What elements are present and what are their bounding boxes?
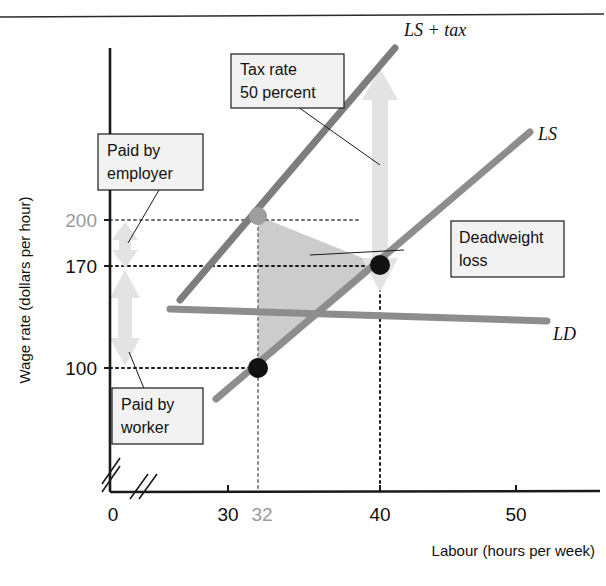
- callout-tax-rate-line2: 50 percent: [240, 84, 316, 101]
- x-axis-break-mark: [130, 474, 157, 499]
- callout-tax-rate-line1: Tax rate: [240, 61, 297, 78]
- x-tick-label-40: 40: [369, 504, 390, 525]
- curve-labour-demand: [170, 309, 547, 321]
- callout-paid-by-employer-line2: employer: [107, 165, 173, 182]
- marker-after-tax-equilibrium: [249, 207, 267, 225]
- callout-tax-rate: Tax rate 50 percent: [231, 54, 344, 108]
- callout-deadweight-loss-line2: loss: [459, 252, 487, 269]
- curve-label-ls: LS: [537, 124, 557, 144]
- leader-line-paid-by-employer: [128, 190, 159, 243]
- callout-paid-by-worker-line1: Paid by: [121, 396, 174, 413]
- y-tick-label-200: 200: [65, 210, 97, 231]
- callout-paid-by-employer: Paid by employer: [98, 134, 203, 190]
- callout-deadweight-loss: Deadweight loss: [451, 221, 564, 277]
- y-axis-title: Wage rate (dollars per hour): [16, 196, 33, 383]
- callout-paid-by-employer-line1: Paid by: [107, 142, 160, 159]
- x-axis-title: Labour (hours per week): [432, 542, 595, 559]
- y-tick-label-100: 100: [65, 358, 97, 379]
- top-divider-rule: [0, 14, 604, 17]
- y-tick-label-170: 170: [65, 256, 97, 277]
- economics-figure: 200 170 100 0 30 32 40 50 Wage rate (dol…: [0, 0, 606, 586]
- x-tick-label-30: 30: [217, 504, 238, 525]
- marker-pretax-equilibrium: [370, 255, 390, 275]
- curve-label-ld: LD: [552, 324, 576, 344]
- figure-canvas: 200 170 100 0 30 32 40 50 Wage rate (dol…: [0, 0, 606, 586]
- x-tick-label-50: 50: [505, 504, 526, 525]
- marker-worker-wage: [248, 358, 268, 378]
- callout-paid-by-worker-line2: worker: [120, 419, 170, 436]
- callout-paid-by-worker: Paid by worker: [112, 388, 203, 444]
- callout-deadweight-loss-line1: Deadweight: [459, 229, 544, 246]
- paid-by-employer-arrow: [112, 222, 138, 268]
- x-axis-line: [110, 491, 600, 492]
- x-tick-label-32: 32: [251, 504, 272, 525]
- paid-by-worker-arrow: [110, 270, 140, 366]
- curve-label-ls-plus-tax: LS + tax: [403, 20, 466, 40]
- x-origin-label: 0: [108, 504, 119, 525]
